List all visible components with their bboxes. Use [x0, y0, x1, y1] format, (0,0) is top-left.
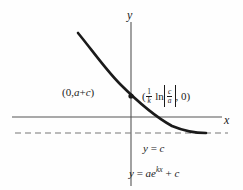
asymptote-equals: = — [151, 142, 157, 154]
asymptote-label: y = c — [143, 143, 165, 154]
fraction-c-over-a: ca — [167, 88, 173, 104]
x-axis-label: x — [224, 114, 229, 126]
y-intercept-label: (0,a+c) — [62, 87, 94, 98]
absolute-value-bars: ca — [164, 88, 176, 104]
y-axis-label: y — [127, 9, 132, 21]
equation-y: y — [129, 167, 134, 179]
asymptote-y: y — [143, 142, 148, 154]
exponential-curve — [78, 33, 206, 133]
x-intercept-close: , 0) — [175, 90, 190, 102]
y-intercept-open: (0, — [62, 86, 74, 98]
x-intercept-label: (1k lnca, 0) — [142, 88, 190, 104]
plot-canvas — [0, 0, 243, 190]
y-intercept-dot — [128, 93, 133, 98]
equation-plus: + — [165, 167, 171, 179]
fraction-one-over-k: 1k — [146, 88, 152, 104]
fraction-denominator: a — [167, 97, 173, 105]
curve-equation-label: y = aekx + c — [129, 166, 179, 179]
asymptote-c: c — [160, 142, 165, 154]
exponential-decay-figure: y x (0,a+c) (1k lnca, 0) y = c y = aekx … — [0, 0, 243, 190]
fraction-denominator: k — [146, 97, 152, 105]
equation-exponent: kx — [156, 165, 163, 174]
x-intercept-open: ( — [142, 90, 146, 102]
y-intercept-close: ) — [91, 86, 95, 98]
equation-equals: = — [137, 167, 143, 179]
natural-log-operator: ln — [155, 90, 164, 102]
equation-c: c — [174, 167, 179, 179]
